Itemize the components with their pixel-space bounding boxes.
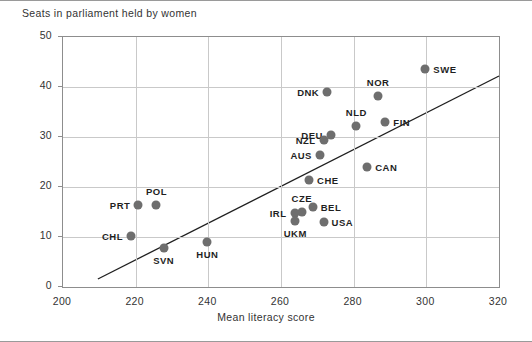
data-point[interactable] xyxy=(319,218,328,227)
data-point[interactable] xyxy=(291,217,300,226)
gridline-vertical xyxy=(426,37,427,287)
data-point-label: HUN xyxy=(196,249,218,260)
data-point[interactable] xyxy=(134,201,143,210)
data-point-label: DNK xyxy=(297,87,319,98)
y-tick-label: 10 xyxy=(22,229,52,241)
data-point-label: BEL xyxy=(321,202,342,213)
data-point[interactable] xyxy=(203,238,212,247)
data-point[interactable] xyxy=(127,232,136,241)
data-point-label: CAN xyxy=(375,162,397,173)
y-tick-label: 20 xyxy=(22,179,52,191)
data-point-label: FIN xyxy=(393,117,410,128)
y-tick-label: 40 xyxy=(22,79,52,91)
data-point[interactable] xyxy=(421,65,430,74)
y-tick-label: 50 xyxy=(22,29,52,41)
data-point-label: CHE xyxy=(317,175,339,186)
y-tick-mark xyxy=(58,186,62,187)
trendline xyxy=(98,76,499,279)
x-tick-label: 260 xyxy=(260,295,300,307)
x-tick-label: 280 xyxy=(333,295,373,307)
y-tick-mark xyxy=(58,36,62,37)
chart-title: Seats in parliament held by women xyxy=(22,7,197,19)
data-point[interactable] xyxy=(319,136,328,145)
data-point-label: SVN xyxy=(153,255,174,266)
y-tick-label: 30 xyxy=(22,129,52,141)
data-point-label: NOR xyxy=(367,77,390,88)
x-tick-label: 240 xyxy=(187,295,227,307)
data-point-label: NLD xyxy=(346,107,367,118)
x-tick-label: 320 xyxy=(478,295,518,307)
data-point-label: NZL xyxy=(296,135,316,146)
data-point[interactable] xyxy=(363,163,372,172)
data-point-label: PRT xyxy=(110,200,131,211)
data-point[interactable] xyxy=(159,244,168,253)
data-point[interactable] xyxy=(381,118,390,127)
data-point-label: AUS xyxy=(290,150,312,161)
data-point[interactable] xyxy=(315,151,324,160)
y-tick-mark xyxy=(58,236,62,237)
gridline-vertical xyxy=(354,37,355,287)
x-tick-label: 200 xyxy=(42,295,82,307)
x-tick-label: 220 xyxy=(115,295,155,307)
data-point[interactable] xyxy=(305,176,314,185)
data-point-label: CZE xyxy=(292,193,313,204)
scatter-chart-figure: Seats in parliament held by women Mean l… xyxy=(0,0,532,342)
y-tick-mark xyxy=(58,86,62,87)
data-point-label: UKM xyxy=(284,228,307,239)
data-point[interactable] xyxy=(152,201,161,210)
data-point-label: POL xyxy=(146,186,167,197)
data-point[interactable] xyxy=(323,88,332,97)
data-point-label: SWE xyxy=(433,64,456,75)
data-point-label: CHL xyxy=(102,231,123,242)
y-tick-label: 0 xyxy=(22,279,52,291)
data-point[interactable] xyxy=(374,92,383,101)
y-tick-mark xyxy=(58,286,62,287)
data-point[interactable] xyxy=(352,122,361,131)
x-axis-title: Mean literacy score xyxy=(0,311,532,323)
data-point-label: USA xyxy=(332,217,354,228)
y-tick-mark xyxy=(58,136,62,137)
gridline-vertical xyxy=(136,37,137,287)
x-tick-label: 300 xyxy=(405,295,445,307)
data-point-label: IRL xyxy=(270,208,287,219)
top-divider xyxy=(0,0,532,1)
gridline-vertical xyxy=(281,37,282,287)
